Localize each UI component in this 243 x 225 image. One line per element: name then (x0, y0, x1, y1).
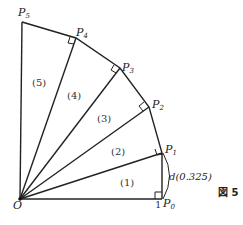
label-d: d(0.325) (169, 171, 212, 182)
label-p3: P3 (121, 61, 134, 75)
label-origin: O (13, 199, 22, 212)
ray-op4 (20, 38, 76, 199)
label-p5: P5 (17, 6, 30, 20)
right-angle-p3 (111, 65, 116, 73)
ray-op1 (20, 153, 162, 199)
region-1: (1) (120, 177, 134, 188)
region-4: (4) (67, 90, 81, 101)
spiral-triangle-diagram: P5 P4 P3 P2 P1 P0 O 1 d(0.325) (1) (2) (… (0, 0, 243, 225)
figure-caption: 図 5 (218, 187, 238, 198)
label-unit: 1 (155, 199, 161, 210)
region-2: (2) (111, 146, 125, 157)
label-p2: P2 (151, 98, 164, 112)
outer-edges (22, 22, 162, 199)
label-p4: P4 (75, 26, 88, 40)
region-3: (3) (97, 113, 111, 124)
right-angle-p2 (139, 102, 144, 111)
ray-op5 (20, 22, 22, 199)
region-5: (5) (32, 77, 46, 88)
right-angle-p4 (68, 37, 74, 44)
label-p0: P0 (162, 197, 175, 211)
right-angle-p0 (155, 192, 162, 199)
label-p1: P1 (164, 143, 177, 157)
origin-dot (18, 197, 22, 201)
